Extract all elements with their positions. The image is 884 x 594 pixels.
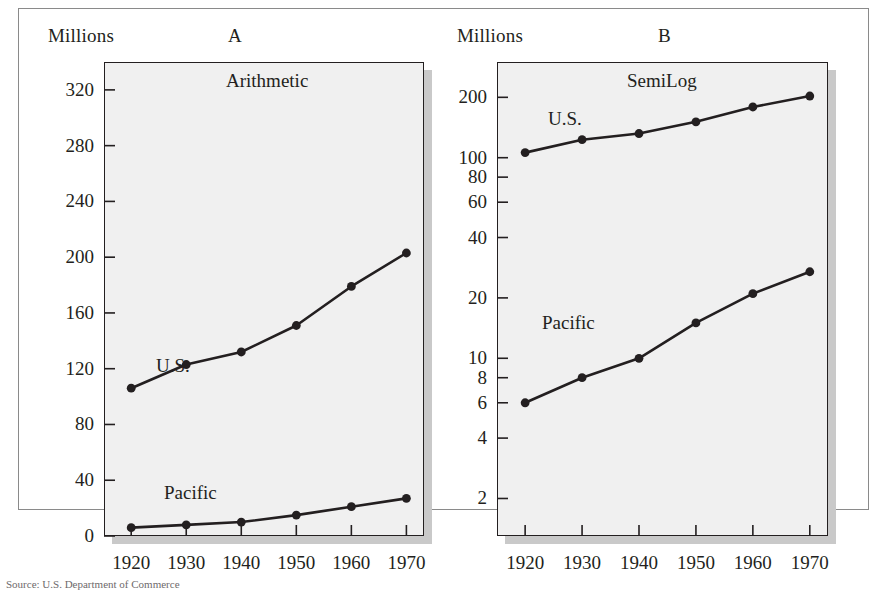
x-tick-label: 1960	[734, 552, 772, 574]
panel-letter-a: A	[228, 25, 242, 47]
plot-lines-a	[104, 62, 444, 552]
y-tick-label: 120	[30, 358, 94, 380]
series-label-pacific-a: Pacific	[164, 482, 217, 504]
x-tick-label: 1970	[791, 552, 829, 574]
series-label-us-a: U.S.	[156, 355, 190, 377]
plot-title-a: Arithmetic	[226, 70, 308, 92]
x-tick-label: 1950	[277, 552, 315, 574]
y-tick-label: 0	[30, 525, 94, 547]
x-tick-label: 1920	[506, 552, 544, 574]
y-tick-label: 200	[30, 246, 94, 268]
y-tick-label: 240	[30, 190, 94, 212]
x-tick-label: 1930	[167, 552, 205, 574]
y-tick-label: 280	[30, 135, 94, 157]
series-label-us-b: U.S.	[548, 108, 582, 130]
y-tick-label: 320	[30, 79, 94, 101]
y-axis-units-label-b: Millions	[457, 25, 523, 47]
source-note: Source: U.S. Department of Commerce	[6, 578, 180, 590]
x-tick-label: 1960	[332, 552, 370, 574]
x-tick-label: 1940	[222, 552, 260, 574]
series-label-pacific-b: Pacific	[542, 312, 595, 334]
y-tick-label: 80	[30, 413, 94, 435]
y-tick-label: 40	[30, 469, 94, 491]
plot-title-b: SemiLog	[627, 70, 697, 92]
panel-letter-b: B	[658, 25, 671, 47]
y-tick-label: 160	[30, 302, 94, 324]
figure-root: Millions A Arithmetic U.S. Pacific 04080…	[0, 0, 884, 594]
x-tick-label: 1940	[620, 552, 658, 574]
chart-panel-b: Millions B SemiLog U.S. Pacific 24681020…	[442, 0, 884, 594]
x-tick-label: 1930	[563, 552, 601, 574]
y-axis-units-label-a: Millions	[48, 25, 114, 47]
x-tick-label: 1970	[387, 552, 425, 574]
x-tick-label: 1950	[677, 552, 715, 574]
chart-panel-a: Millions A Arithmetic U.S. Pacific 04080…	[0, 0, 442, 594]
x-tick-label: 1920	[112, 552, 150, 574]
plot-lines-b	[497, 62, 847, 552]
